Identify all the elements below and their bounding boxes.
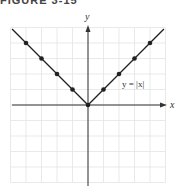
data-point [86,103,91,108]
equation-label: y = |x| [122,79,144,89]
absolute-value-chart: x y y = |x| [0,0,181,192]
x-axis-arrow-icon [160,103,167,108]
data-point [148,41,153,46]
y-axis-label: y [84,11,90,22]
x-axis-label: x [169,99,175,110]
data-point [117,72,122,77]
data-point [70,87,75,92]
data-point [132,56,137,61]
data-point [101,87,106,92]
data-point [39,56,44,61]
data-point [55,72,60,77]
axes: x y [12,11,175,186]
data-point [24,41,29,46]
y-axis-arrow-icon [86,25,91,32]
